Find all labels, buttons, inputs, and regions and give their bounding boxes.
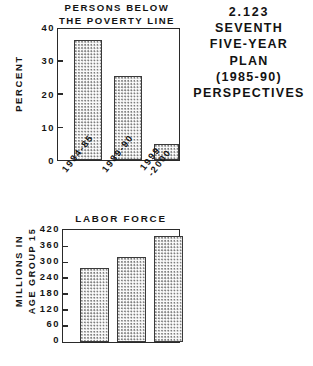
poverty-ytick-0: 0 [48,155,55,166]
poverty-ytick-10: 10 [42,122,55,133]
plan-title-line-3: PLAN [186,53,312,69]
labor-ytick-420: 420 [40,223,60,234]
poverty-chart-title-line-2: THE POVERTY LINE [44,15,190,28]
poverty-ytick-30: 30 [42,55,55,66]
poverty-ytick-20: 20 [42,89,55,100]
poverty-tickmark-30 [58,60,63,62]
labor-ytick-180: 180 [40,287,60,298]
labor-tickmark-240 [63,277,68,279]
labor-bar-1989-90 [117,257,146,342]
labor-ytick-360: 360 [40,239,60,250]
plan-title-line-1: SEVENTH [186,20,312,36]
labor-ytick-240: 240 [40,271,60,282]
plan-title-line-2: FIVE-YEAR [186,36,312,52]
poverty-chart-title: PERSONS BELOW THE POVERTY LINE [44,2,190,27]
labor-tickmark-360 [63,246,68,248]
labor-y-axis-label-line-2: AGE GROUP 15 [26,217,39,325]
poverty-y-axis: 40 30 20 10 0 [26,28,55,161]
poverty-tickmark-20 [58,93,63,95]
labor-chart-title: LABOR FORCE [55,213,187,224]
labor-tickmark-60 [63,325,68,327]
poverty-plot-area [57,28,180,161]
labor-y-axis-label-line-1: MILLIONS IN [13,217,26,325]
plan-title-line-4: (1985-90) [186,69,312,85]
chart-persons-below-poverty-line: PERSONS BELOW THE POVERTY LINE 40 30 20 … [0,0,190,215]
poverty-tickmark-10 [58,127,63,129]
plan-title-line-5: PERSPECTIVES [186,85,312,101]
poverty-chart-title-line-1: PERSONS BELOW [44,2,190,15]
labor-tickmark-180 [63,293,68,295]
plan-title-block: 2.123 SEVENTH FIVE-YEAR PLAN (1985-90) P… [186,4,312,101]
poverty-y-axis-label: PERCENT [13,49,24,119]
poverty-ytick-40: 40 [42,22,55,33]
chart-labor-force: LABOR FORCE 420 360 300 240 180 120 60 0… [0,212,195,366]
labor-ytick-300: 300 [40,255,60,266]
labor-plot-area [62,229,180,343]
labor-ytick-60: 60 [47,318,60,329]
labor-y-axis-label: MILLIONS IN AGE GROUP 15 [13,217,39,325]
labor-bar-1999-2000 [154,236,183,342]
labor-ytick-0: 0 [53,334,60,345]
labor-tickmark-120 [63,309,68,311]
plan-title-line-number: 2.123 [186,4,312,20]
labor-tickmark-300 [63,262,68,264]
labor-ytick-120: 120 [40,303,60,314]
labor-bar-1984-85 [80,268,109,343]
